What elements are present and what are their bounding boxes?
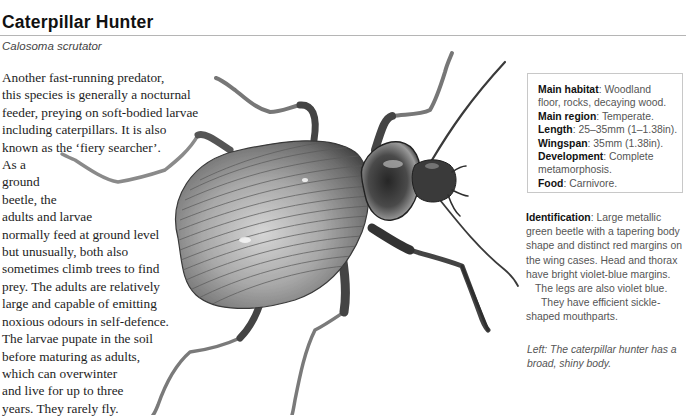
fact-row: Main region: Temperate.: [538, 110, 682, 123]
body-line: normally feed at ground level: [2, 226, 198, 243]
fact-value: : Temperate.: [596, 111, 654, 122]
ident-line: have bright violet-blue margins.: [526, 268, 686, 282]
body-line: The larvae pupate in the soil: [2, 330, 198, 347]
fact-row: Wingspan: 35mm (1.38in).: [538, 137, 682, 150]
fact-box: Main habitat: Woodland floor, rocks, dec…: [527, 73, 683, 193]
ident-line: Identification: Large metallic: [526, 211, 686, 225]
body-line: which can overwinter: [2, 365, 198, 382]
fact-row: Length: 25–35mm (1–1.38in).: [538, 123, 682, 136]
body-line: adults and larvae: [2, 208, 198, 225]
fact-value: : Woodland: [599, 84, 651, 95]
body-text: Another fast-running predator, this spec…: [2, 69, 198, 417]
body-line: feeder, preying on soft-bodied larvae: [2, 104, 198, 121]
body-line: noxious odours in self-defence.: [2, 313, 198, 330]
fact-value: : 25–35mm (1–1.38in).: [573, 124, 678, 135]
fact-row: Development: Complete: [538, 150, 682, 163]
body-line: beetle, the: [2, 191, 198, 208]
body-line: ground: [2, 173, 198, 190]
body-line: prey. The adults are relatively: [2, 278, 198, 295]
image-caption: Left: The caterpillar hunter has a broad…: [527, 343, 686, 372]
ident-label: Identification: [526, 212, 591, 223]
ident-line: green beetle with a tapering body: [526, 225, 686, 239]
fact-label: Length: [538, 124, 573, 135]
ident-line: shaped mouthparts.: [526, 310, 686, 324]
body-line: Another fast-running predator,: [2, 69, 198, 86]
body-line: sometimes climb trees to find: [2, 260, 198, 277]
beetle-thorax: [361, 142, 420, 220]
ident-line: shape and distinct red margins on: [526, 239, 686, 253]
fact-label: Wingspan: [538, 138, 588, 149]
fact-label: Development: [538, 151, 603, 162]
fact-row: Food: Carnivore.: [538, 177, 682, 190]
body-line: known as the ‘fiery searcher’.: [2, 139, 198, 156]
body-line: large and capable of emitting: [2, 295, 198, 312]
caption-line: broad, shiny body.: [527, 357, 686, 371]
identification-text: Identification: Large metallic green bee…: [526, 211, 686, 325]
body-line: this species is generally a nocturnal: [2, 86, 198, 103]
fact-label: Main region: [538, 111, 596, 122]
fact-label: Main habitat: [538, 84, 599, 95]
ident-line: They have efficient sickle-: [526, 296, 686, 310]
body-line: before maturing as adults,: [2, 348, 198, 365]
body-line: and live for up to three: [2, 382, 198, 399]
fact-value: : Complete: [603, 151, 653, 162]
body-line: As a: [2, 156, 198, 173]
fact-row: floor, rocks, decaying wood.: [538, 96, 682, 109]
ident-line: the wing cases. Head and thorax: [526, 254, 686, 268]
body-line: including caterpillars. It is also: [2, 121, 198, 138]
ident-line: The legs are also violet blue.: [526, 282, 686, 296]
body-line: but unusually, both also: [2, 243, 198, 260]
fact-value: : 35mm (1.38in).: [588, 138, 664, 149]
fact-value: metamorphosis.: [538, 164, 612, 175]
fact-value: floor, rocks, decaying wood.: [538, 97, 666, 108]
fact-row: Main habitat: Woodland: [538, 83, 682, 96]
caption-line: Left: The caterpillar hunter has a: [527, 343, 686, 357]
fact-value: : Carnivore.: [563, 178, 617, 189]
fact-row: metamorphosis.: [538, 163, 682, 176]
ident-text: : Large metallic: [591, 212, 661, 223]
fact-label: Food: [538, 178, 563, 189]
body-line: years. They rarely fly.: [2, 400, 198, 417]
